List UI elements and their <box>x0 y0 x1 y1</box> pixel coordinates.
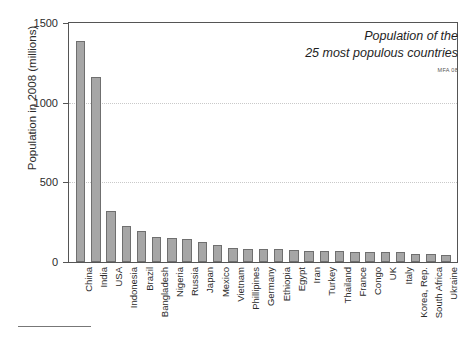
chart-title-line-1: Population of the <box>305 28 458 45</box>
population-bar-chart: Population in 2008 (millions) 0500100015… <box>0 0 472 338</box>
x-axis-label: Germany <box>266 267 276 306</box>
x-axis-label: India <box>99 267 109 288</box>
chart-title-line-2: 25 most populous countries <box>305 45 458 62</box>
x-axis-label: Ethiopia <box>282 267 292 301</box>
bar <box>274 249 283 262</box>
bar <box>76 41 85 262</box>
bar <box>243 249 252 262</box>
x-axis-label: Congo <box>373 267 383 295</box>
x-axis-label: UK <box>388 267 398 280</box>
bar <box>320 251 329 262</box>
bar <box>441 255 450 262</box>
bar <box>289 250 298 262</box>
bar <box>304 251 313 262</box>
bar <box>350 252 359 262</box>
footer-rule <box>18 326 91 327</box>
x-axis-label: Thailand <box>343 267 353 303</box>
chart-title-block: Population of the 25 most populous count… <box>305 28 458 74</box>
bar <box>198 242 207 262</box>
x-axis-label: Indonesia <box>129 267 139 308</box>
y-tick-label-1500: 1500 <box>0 18 58 29</box>
x-axis-label: Russia <box>190 267 200 296</box>
bar <box>213 245 222 262</box>
bar <box>426 254 435 262</box>
x-axis-label: Vietnam <box>236 267 246 302</box>
bar <box>137 231 146 262</box>
bar <box>167 238 176 262</box>
x-axis-label: China <box>84 267 94 292</box>
bar <box>335 251 344 262</box>
chart-credit: MFA 08 <box>305 67 458 74</box>
bar <box>152 237 161 262</box>
x-axis-label: Ukraine <box>449 267 459 300</box>
x-axis-label: France <box>358 267 368 297</box>
x-axis-label: Korea, Rep. <box>419 267 429 318</box>
x-axis-label: Italy <box>404 267 414 284</box>
bar <box>259 249 268 262</box>
y-tick-label-1000: 1000 <box>0 98 58 109</box>
y-tick-label-500: 500 <box>0 177 58 188</box>
x-axis-label: South Africa <box>434 267 444 318</box>
x-axis-label: Bangladesh <box>160 267 170 317</box>
bar <box>411 254 420 262</box>
x-axis-label: USA <box>114 267 124 287</box>
bar <box>228 248 237 262</box>
bar <box>381 252 390 262</box>
x-axis-label: Phillipines <box>251 267 261 310</box>
bar <box>396 252 405 262</box>
x-axis-label: Nigeria <box>175 267 185 297</box>
bar <box>365 252 374 262</box>
x-axis-label: Brazil <box>145 267 155 291</box>
bar <box>182 239 191 262</box>
y-tick-label-0: 0 <box>0 257 58 268</box>
x-axis-label: Japan <box>205 267 215 293</box>
x-axis-label: Mexico <box>221 267 231 297</box>
x-axis-label: Egypt <box>297 267 307 291</box>
bar <box>91 77 100 262</box>
bar <box>106 211 115 262</box>
x-axis-label: Turkey <box>327 267 337 296</box>
bar <box>122 226 131 262</box>
x-axis-label: Iran <box>312 267 322 283</box>
